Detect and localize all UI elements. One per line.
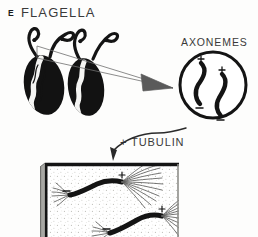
figure-drawing (0, 0, 258, 237)
axoneme-circle-outline (180, 52, 246, 118)
box-interior (45, 163, 179, 237)
flagella-left-cell (29, 29, 74, 58)
flagellum-tip (33, 38, 37, 42)
flagellated-cells-group (20, 29, 118, 119)
flagellum-tip (78, 39, 82, 43)
tubulin-assembly-box (40, 159, 197, 237)
flagellum-tip (60, 37, 64, 41)
figure-panel-e: E FLAGELLA AXONEMES + TUBULIN (0, 0, 258, 237)
cell-body-left (20, 52, 69, 118)
axonemes-circle-group (180, 52, 246, 120)
arrow-axonemes-to-box (110, 128, 186, 161)
flagellum-tip (104, 38, 108, 42)
flagella-right-cell (75, 30, 118, 60)
